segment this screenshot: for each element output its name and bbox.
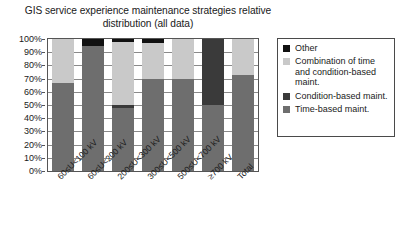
y-tick-label: 90%: [24, 48, 42, 57]
legend-swatch-icon: [283, 45, 290, 52]
y-tick-label: 0%: [29, 167, 42, 176]
y-tick-label: 50%: [24, 101, 42, 110]
y-tick-label: 80%: [24, 61, 42, 70]
legend-swatch-icon: [283, 106, 290, 113]
y-tick-label: 70%: [24, 74, 42, 83]
y-tick-mark: [42, 79, 45, 80]
bar-segment: [142, 43, 164, 79]
legend-item[interactable]: Time-based maint.: [283, 104, 391, 114]
y-tick-mark: [42, 131, 45, 132]
chart-legend: OtherCombination of time and condition-b…: [277, 38, 395, 137]
y-axis: 0%10%20%30%40%50%60%70%80%90%100%: [0, 38, 45, 172]
y-tick-label: 20%: [24, 140, 42, 149]
legend-label: Condition-based maint.: [295, 91, 388, 101]
y-tick-mark: [42, 52, 45, 53]
chart-title-line-2: distribution (all data): [22, 18, 274, 31]
y-tick-mark: [42, 65, 45, 66]
bar-segment: [112, 42, 134, 105]
y-tick-mark: [42, 92, 45, 93]
bar-7: [232, 39, 254, 171]
y-tick-mark: [42, 171, 45, 172]
legend-item[interactable]: Other: [283, 43, 391, 53]
bar-segment: [202, 39, 224, 105]
bar-1: [52, 39, 74, 171]
chart-title-line-1: GIS service experience maintenance strat…: [22, 5, 274, 18]
y-tick-label: 40%: [24, 114, 42, 123]
y-tick-mark: [42, 39, 45, 40]
legend-item-list: OtherCombination of time and condition-b…: [283, 43, 391, 114]
y-tick-label: 10%: [24, 153, 42, 162]
x-axis: 60≤U<100 kV60≤U<200 kV200≤U<300 kV300≤U<…: [47, 173, 259, 243]
chart-container: GIS service experience maintenance strat…: [0, 0, 399, 245]
legend-label: Combination of time and condition-based …: [295, 56, 391, 87]
y-tick-label: 100%: [19, 35, 42, 44]
bar-segment: [172, 39, 194, 79]
legend-label: Time-based maint.: [295, 104, 369, 114]
bar-segment: [52, 39, 74, 83]
legend-item[interactable]: Combination of time and condition-based …: [283, 56, 391, 87]
bar-segment: [232, 75, 254, 171]
bar-segment: [142, 39, 164, 43]
legend-swatch-icon: [283, 93, 290, 100]
legend-label: Other: [295, 43, 318, 53]
legend-swatch-icon: [283, 58, 290, 65]
chart-title: GIS service experience maintenance strat…: [22, 5, 274, 30]
y-tick-mark: [42, 118, 45, 119]
y-tick-mark: [42, 145, 45, 146]
legend-item[interactable]: Condition-based maint.: [283, 91, 391, 101]
y-tick-label: 60%: [24, 87, 42, 96]
bar-segment: [112, 39, 134, 42]
bar-segment: [112, 105, 134, 108]
y-tick-mark: [42, 105, 45, 106]
bar-segment: [232, 39, 254, 75]
y-tick-mark: [42, 158, 45, 159]
y-tick-label: 30%: [24, 127, 42, 136]
bar-segment: [82, 39, 104, 46]
